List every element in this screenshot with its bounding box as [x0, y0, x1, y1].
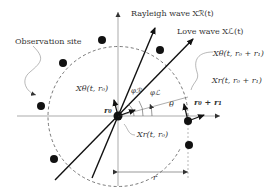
- label-x-r-r0: Xr(t, r₀): [137, 131, 168, 139]
- label-theta: θ: [169, 101, 174, 109]
- label-phi-R: φℛ: [131, 88, 142, 95]
- label-x-r-r0r1: Xr(t, r₀ + r₁): [212, 77, 262, 85]
- label-x-theta-r0r1: Xθ(t, r₀ + r₁): [213, 50, 264, 58]
- label-rayleigh-wave: Rayleigh wave Xℛ(t): [131, 10, 214, 18]
- label-phi-L: φℒ: [150, 90, 160, 97]
- rayleigh-arrow: [92, 28, 155, 178]
- angle-arcs: [128, 101, 152, 116]
- label-r: r: [153, 174, 157, 182]
- label-observation-site: Observation site: [15, 38, 82, 46]
- label-x-theta-r0: Xθ(t, r₀): [76, 85, 108, 93]
- label-r0r1: r₀ + r₁: [194, 98, 222, 106]
- label-r0: r₀: [104, 106, 112, 114]
- label-love-wave: Love wave Xℒ(t): [177, 28, 244, 36]
- love-arrow: [55, 39, 193, 180]
